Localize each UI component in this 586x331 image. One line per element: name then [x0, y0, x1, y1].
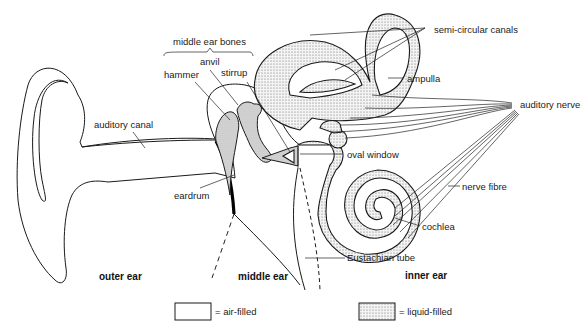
- label-ampulla: ampulla: [407, 73, 441, 84]
- label-auditory-nerve: auditory nerve: [520, 99, 580, 110]
- legend-label-liquid: = liquid-filled: [399, 306, 452, 317]
- region-outer-ear: outer ear: [99, 271, 142, 282]
- label-auditory-canal: auditory canal: [94, 119, 153, 130]
- legend: = air-filled = liquid-filled: [175, 303, 452, 320]
- label-cochlea: cochlea: [422, 221, 455, 232]
- semi-circular-canals-shape: [254, 14, 419, 130]
- label-nerve-fibre: nerve fibre: [462, 181, 507, 192]
- label-eardrum: eardrum: [174, 190, 209, 201]
- label-eustachian-tube: Eustachian tube: [347, 252, 415, 263]
- label-anvil: anvil: [200, 56, 220, 67]
- label-hammer: hammer: [164, 69, 199, 80]
- ear-diagram: middle ear bones anvil hammer stirrup au…: [0, 0, 586, 331]
- label-oval-window: oval window: [347, 149, 399, 160]
- outer-middle-divider: [212, 214, 234, 278]
- legend-swatch-liquid: [359, 303, 395, 320]
- hammer-bone: [216, 112, 239, 195]
- label-semi-circular-canals: semi-circular canals: [434, 24, 518, 35]
- region-middle-ear: middle ear: [238, 271, 288, 282]
- label-stirrup: stirrup: [221, 67, 247, 78]
- label-middle-ear-bones: middle ear bones: [173, 36, 246, 47]
- pinna: [17, 68, 235, 283]
- legend-label-air: = air-filled: [215, 306, 256, 317]
- region-inner-ear: inner ear: [405, 270, 447, 281]
- legend-swatch-air: [175, 303, 211, 320]
- cochlea-shape: [298, 121, 420, 263]
